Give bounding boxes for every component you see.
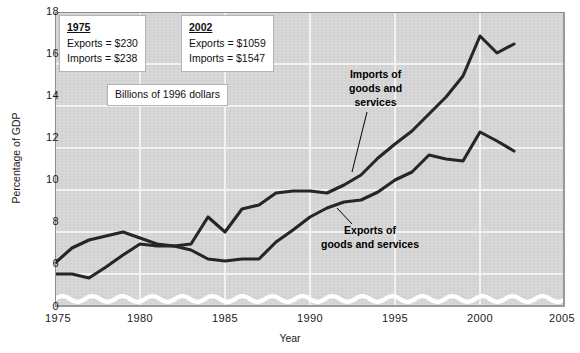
- callout-1975-imports: Imports = $238: [67, 51, 138, 66]
- x-tick-label: 1980: [127, 312, 153, 324]
- x-tick-label: 2000: [467, 312, 493, 324]
- callout-box-units: Billions of 1996 dollars: [107, 84, 228, 106]
- callout-box-1975: 1975 Exports = $230 Imports = $238: [59, 15, 146, 72]
- axis-line-top: [55, 12, 565, 13]
- x-tick-label: 1990: [297, 312, 323, 324]
- series-line-exports: [55, 132, 514, 278]
- y-tick-label: 16: [46, 47, 59, 59]
- callout-1975-exports: Exports = $230: [67, 36, 138, 51]
- y-tick-label: 18: [46, 5, 59, 17]
- y-tick-label: 8: [52, 215, 59, 227]
- callout-1975-title: 1975: [67, 20, 138, 35]
- x-tick-label: 1975: [45, 312, 71, 324]
- plot-area: 1975 Exports = $230 Imports = $238 2002 …: [55, 12, 565, 307]
- chart-figure: 1975 Exports = $230 Imports = $238 2002 …: [0, 0, 580, 353]
- x-axis-title: Year: [0, 332, 580, 344]
- callout-2002-title: 2002: [189, 20, 266, 35]
- y-tick-label: 12: [46, 131, 59, 143]
- y-tick-label: 0: [52, 300, 59, 312]
- series-label-exports: Exports of goods and services: [321, 224, 419, 252]
- exports-label-line-2: goods and services: [321, 238, 419, 250]
- x-tick-label: 1995: [382, 312, 408, 324]
- x-tick-label: 1985: [212, 312, 238, 324]
- x-tick-label: 2005: [549, 312, 575, 324]
- series-label-imports: Imports of goods and services: [349, 68, 402, 110]
- y-axis-title: Percentage of GDP: [10, 98, 22, 218]
- callout-2002-exports: Exports = $1059: [189, 36, 266, 51]
- y-tick-label: 10: [46, 173, 59, 185]
- imports-label-line-3: services: [355, 96, 397, 108]
- callout-units-text: Billions of 1996 dollars: [115, 88, 220, 100]
- imports-label-line-1: Imports of: [350, 68, 401, 80]
- axis-break-wave: [55, 296, 565, 302]
- y-tick-label: 14: [46, 89, 59, 101]
- callout-box-2002: 2002 Exports = $1059 Imports = $1547: [181, 15, 274, 72]
- imports-label-line-2: goods and: [349, 82, 402, 94]
- callout-2002-imports: Imports = $1547: [189, 51, 266, 66]
- exports-label-line-1: Exports of: [344, 224, 396, 236]
- y-tick-label: 6: [52, 257, 59, 269]
